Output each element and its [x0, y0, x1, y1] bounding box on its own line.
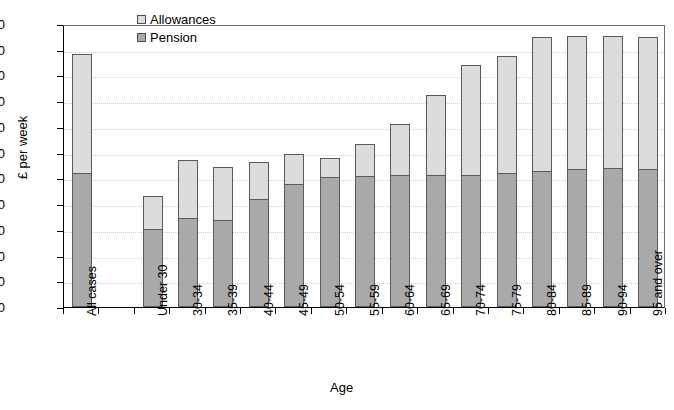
x-tick-mark	[665, 308, 666, 314]
x-axis-title: Age	[330, 380, 353, 395]
bar-group[interactable]	[532, 24, 552, 307]
x-category-label: 65-69	[440, 284, 453, 316]
y-axis-title: £ per week	[15, 88, 30, 208]
x-tick-mark	[134, 308, 135, 314]
bar-group[interactable]	[355, 24, 375, 307]
y-tick-label: 180	[0, 69, 5, 82]
y-tick-label: 100	[0, 172, 5, 185]
x-category-label: 80-84	[546, 284, 559, 316]
y-tick-label: 220	[0, 18, 5, 31]
bar-group[interactable]	[426, 24, 446, 307]
x-tick-mark	[63, 308, 64, 314]
y-tick-label: 40	[0, 250, 5, 263]
x-category-label: 45-49	[298, 284, 311, 316]
bar-segment-allowances[interactable]	[532, 37, 552, 172]
x-category-label: 95 and over	[652, 250, 665, 316]
x-tick-mark	[594, 308, 595, 314]
x-category-label: 70-74	[475, 284, 488, 316]
legend-swatch-icon	[137, 15, 146, 24]
x-category-label: 50-54	[334, 284, 347, 316]
x-category-label: 40-44	[263, 284, 276, 316]
bar-group[interactable]	[284, 24, 304, 307]
legend-item[interactable]: Allowances	[137, 11, 216, 28]
y-tick-label: 120	[0, 147, 5, 160]
legend-swatch-icon	[137, 33, 146, 42]
bar-segment-allowances[interactable]	[143, 196, 163, 229]
bar-group[interactable]	[178, 24, 198, 307]
stacked-bar-chart: £ per week 22020018016014012010080604020…	[0, 0, 674, 410]
bar-segment-allowances[interactable]	[284, 154, 304, 185]
y-tick-label: 20	[0, 275, 5, 288]
bar-group[interactable]	[567, 24, 587, 307]
plot-area	[63, 25, 665, 308]
bar-group[interactable]	[72, 24, 92, 307]
bar-segment-allowances[interactable]	[72, 54, 92, 175]
bar-segment-allowances[interactable]	[426, 95, 446, 176]
bar-group[interactable]	[320, 24, 340, 307]
x-category-label: 90-94	[617, 284, 630, 316]
bar-segment-allowances[interactable]	[178, 160, 198, 219]
x-tick-mark	[240, 308, 241, 314]
y-tick-label: 0	[0, 301, 5, 314]
x-tick-mark	[488, 308, 489, 314]
legend: AllowancesPension	[137, 11, 216, 47]
bar-group[interactable]	[461, 24, 481, 307]
x-category-label: 75-79	[511, 284, 524, 316]
legend-label: Allowances	[150, 13, 216, 26]
x-category-label: 55-59	[369, 284, 382, 316]
y-tick-label: 80	[0, 198, 5, 211]
bar-group[interactable]	[213, 24, 233, 307]
x-category-label: All cases	[86, 266, 99, 316]
bar-group[interactable]	[603, 24, 623, 307]
x-category-label: 30-34	[192, 284, 205, 316]
bar-segment-allowances[interactable]	[390, 124, 410, 175]
legend-item[interactable]: Pension	[137, 29, 216, 46]
bar-segment-allowances[interactable]	[497, 56, 517, 174]
bar-segment-allowances[interactable]	[567, 36, 587, 171]
bar-segment-allowances[interactable]	[249, 162, 269, 200]
x-tick-mark	[311, 308, 312, 314]
bar-group[interactable]	[249, 24, 269, 307]
bar-segment-allowances[interactable]	[461, 65, 481, 175]
bar-group[interactable]	[497, 24, 517, 307]
bar-segment-allowances[interactable]	[603, 36, 623, 169]
bar-segment-allowances[interactable]	[320, 158, 340, 178]
bar-group[interactable]	[390, 24, 410, 307]
bar-segment-allowances[interactable]	[638, 37, 658, 170]
y-tick-label: 60	[0, 224, 5, 237]
bar-segment-allowances[interactable]	[355, 144, 375, 177]
bar-segment-allowances[interactable]	[213, 167, 233, 221]
y-tick-label: 200	[0, 44, 5, 57]
x-tick-mark	[417, 308, 418, 314]
x-category-label: Under 30	[157, 265, 170, 316]
legend-label: Pension	[150, 31, 197, 44]
x-category-label: 60-64	[404, 284, 417, 316]
x-category-label: 85-89	[581, 284, 594, 316]
y-tick-label: 160	[0, 95, 5, 108]
y-tick-label: 140	[0, 121, 5, 134]
x-category-label: 35-39	[227, 284, 240, 316]
